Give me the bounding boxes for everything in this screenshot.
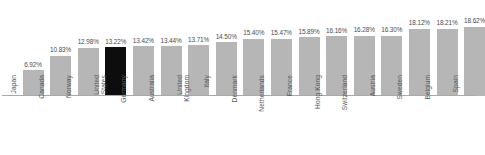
chart-caption (0, 148, 479, 155)
bar-value-label: 15.89% (298, 28, 319, 36)
category-label: Spain (452, 75, 460, 121)
bar-value-label: 18.21% (436, 19, 457, 27)
category-label: France (286, 75, 294, 121)
bar-value-label: 16.30% (381, 26, 402, 34)
category-label: United Kingdom (176, 75, 190, 121)
bar-value-label: 6.92% (24, 61, 42, 69)
bar-value-label: 18.62% (464, 17, 485, 25)
category-label: Canada (38, 75, 46, 121)
bar-value-label: 18.12% (409, 19, 430, 27)
category-label: Japan (10, 75, 18, 121)
category-label: Norway (65, 75, 73, 121)
category-label: Germany (120, 75, 128, 121)
bar-value-label: 13.44% (160, 37, 181, 45)
category-label: Belgium (424, 75, 432, 121)
category-label: Netherlands (258, 75, 266, 121)
category-label: Australia (148, 75, 156, 121)
bar-value-label: 13.22% (105, 38, 126, 46)
bar-group[interactable]: 18.62% (464, 1, 485, 96)
bar-value-label: 13.42% (133, 37, 154, 45)
category-label: Switzerland (341, 75, 349, 121)
bar-value-label: 14.50% (216, 33, 237, 41)
bar-value-label: 15.40% (243, 29, 264, 37)
bar-value-label: 16.16% (326, 27, 347, 35)
category-label: United States (93, 75, 107, 121)
bar-value-label: 12.98% (78, 38, 99, 46)
bar-value-label: 15.47% (271, 29, 292, 37)
bar[interactable] (464, 27, 485, 96)
category-label-slot: Spain (464, 96, 485, 146)
category-label: Sweden (396, 75, 404, 121)
category-label: Austria (369, 75, 377, 121)
bar-value-label: 10.83% (50, 46, 71, 54)
category-label: Italy (203, 75, 211, 121)
bar-value-label: 13.71% (188, 36, 209, 44)
category-label: Denmark (231, 75, 239, 121)
bar-value-label: 16.28% (354, 26, 375, 34)
category-label: Hong Kong (314, 75, 322, 121)
x-axis-category-labels: JapanCanadaNorwayUnited StatesGermanyAus… (0, 96, 479, 146)
